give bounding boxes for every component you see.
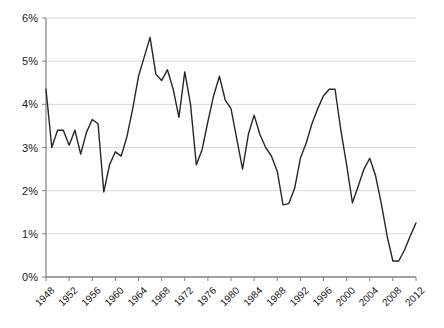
line-chart: 0%1%2%3%4%5%6%19481952195619601964196819… [0,0,444,328]
xtick-label-1996: 1996 [310,284,334,308]
xtick-label-2012: 2012 [403,284,427,308]
xtick-label-1960: 1960 [102,284,126,308]
ytick-label-3%: 3% [22,142,38,154]
ytick-label-2%: 2% [22,185,38,197]
data-series-line [46,37,416,261]
xtick-label-2000: 2000 [334,284,358,308]
xtick-label-1952: 1952 [56,284,80,308]
xtick-label-1992: 1992 [287,284,311,308]
xtick-label-1972: 1972 [172,284,196,308]
ytick-label-4%: 4% [22,98,38,110]
xtick-label-1956: 1956 [79,284,103,308]
xtick-label-1980: 1980 [218,284,242,308]
xtick-label-2004: 2004 [357,284,381,308]
ytick-label-6%: 6% [22,12,38,24]
xtick-label-1968: 1968 [149,284,173,308]
xtick-label-1948: 1948 [33,284,57,308]
ytick-label-1%: 1% [22,228,38,240]
xtick-label-1988: 1988 [264,284,288,308]
ytick-label-0%: 0% [22,271,38,283]
ytick-label-5%: 5% [22,55,38,67]
xtick-label-1984: 1984 [241,284,265,308]
xtick-label-1976: 1976 [195,284,219,308]
chart-canvas: 0%1%2%3%4%5%6%19481952195619601964196819… [0,0,444,328]
xtick-label-1964: 1964 [125,284,149,308]
xtick-label-2008: 2008 [380,284,404,308]
